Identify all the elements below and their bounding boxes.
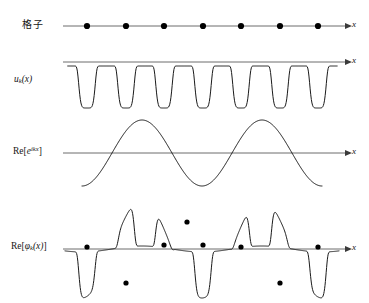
bloch-marker-dot (161, 242, 166, 247)
bloch-marker-dot (238, 244, 243, 249)
lattice-site-dot (123, 23, 129, 29)
axes-group (63, 23, 352, 252)
lattice-site-dot (161, 23, 167, 29)
axis-arrow-periodic-part (345, 59, 352, 65)
lattice-site-dot (200, 23, 206, 29)
lattice-site-dot (238, 23, 244, 29)
lattice-site-dot (277, 23, 283, 29)
axis-arrow-lattice (345, 23, 352, 29)
bloch-marker-dot (200, 242, 205, 247)
lattice-site-dot (84, 23, 90, 29)
figure-canvas (0, 0, 369, 303)
curve-periodic-part (68, 66, 337, 108)
bloch-wave-figure: 格子 x uk(x) x Re[eikx] x Re[φk(x)] x (0, 0, 369, 303)
curve-bloch-function (65, 209, 339, 298)
lattice-site-dot (315, 23, 321, 29)
bloch-marker-dot (123, 280, 128, 285)
curves-group (65, 66, 339, 298)
axis-arrow-plane-wave (345, 150, 352, 156)
axis-arrow-bloch-function (345, 246, 352, 252)
bloch-marker-dot (184, 219, 189, 224)
bloch-marker-dot (277, 280, 282, 285)
bloch-marker-dot (84, 244, 89, 249)
bloch-marker-dot (315, 244, 320, 249)
